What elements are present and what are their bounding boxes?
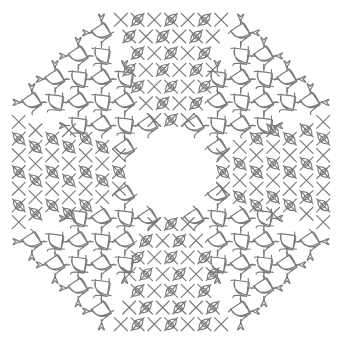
kolam-drawing — [0, 0, 342, 344]
canvas-background — [0, 0, 342, 344]
artwork-canvas — [0, 0, 342, 344]
